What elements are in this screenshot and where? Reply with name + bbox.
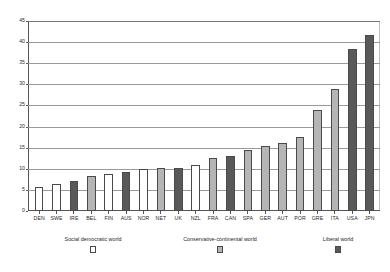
x-axis-tick-mark	[39, 211, 40, 214]
y-axis-tick-label: 15	[1, 145, 25, 150]
bar-fra[interactable]	[209, 158, 218, 211]
y-axis-tick-label: 10	[1, 166, 25, 171]
bar-slot[interactable]	[292, 21, 308, 211]
y-axis-tick-label: 25	[1, 103, 25, 108]
x-axis-label-fra: FRA	[205, 215, 221, 221]
y-axis-tick-label: 35	[1, 61, 25, 66]
bar-slot[interactable]	[66, 21, 82, 211]
bar-net[interactable]	[157, 168, 166, 211]
x-axis-label-nor: NOR	[135, 215, 151, 221]
x-axis-label-ire: IRE	[66, 215, 82, 221]
x-axis-label-gre: GRE	[309, 215, 325, 221]
bar-slot[interactable]	[205, 21, 221, 211]
bar-slot[interactable]	[257, 21, 273, 211]
bar-can[interactable]	[226, 156, 235, 211]
x-axis-tick-mark	[56, 211, 57, 214]
y-axis-tick-label: 40	[1, 40, 25, 45]
bar-slot[interactable]	[170, 21, 186, 211]
bar-slot[interactable]	[327, 21, 343, 211]
bar-aut[interactable]	[278, 143, 287, 211]
x-axis-label-ita: ITA	[327, 215, 343, 221]
bar-slot[interactable]	[48, 21, 64, 211]
bar-jpn[interactable]	[365, 35, 374, 211]
bar-slot[interactable]	[83, 21, 99, 211]
x-axis-tick-mark	[126, 211, 127, 214]
bar-chart: 051015202530354045 DENSWEIREBELFINAUSNOR…	[0, 0, 390, 272]
bar-ita[interactable]	[331, 89, 340, 211]
x-axis-tick-mark	[282, 211, 283, 214]
x-axis-labels: DENSWEIREBELFINAUSNORNETUKNZLFRACANSPAGE…	[28, 215, 380, 221]
y-axis-tick-label: 45	[1, 18, 25, 23]
bar-aus[interactable]	[122, 172, 131, 211]
x-axis-tick-mark	[91, 211, 92, 214]
bar-ger[interactable]	[261, 146, 270, 211]
bar-por[interactable]	[296, 137, 305, 211]
x-axis-label-net: NET	[153, 215, 169, 221]
x-axis-label-aut: AUT	[274, 215, 290, 221]
x-axis-tick-mark	[160, 211, 161, 214]
legend-entry-social[interactable]: Social democratic world	[38, 236, 148, 253]
x-axis-label-swe: SWE	[48, 215, 64, 221]
x-axis-tick-mark	[178, 211, 179, 214]
x-axis-label-jpn: JPN	[361, 215, 377, 221]
chart-legend: Social democratic worldConservative-cont…	[28, 236, 380, 268]
bar-uk[interactable]	[174, 168, 183, 211]
bar-fin[interactable]	[104, 174, 113, 211]
x-axis-tick-mark	[300, 211, 301, 214]
bar-slot[interactable]	[240, 21, 256, 211]
bar-series	[28, 21, 380, 211]
x-axis-label-fin: FIN	[101, 215, 117, 221]
x-axis-label-bel: BEL	[83, 215, 99, 221]
x-axis-tick-mark	[352, 211, 353, 214]
x-axis-label-spa: SPA	[240, 215, 256, 221]
bar-nzl[interactable]	[191, 165, 200, 211]
x-axis-label-por: POR	[292, 215, 308, 221]
bar-slot[interactable]	[118, 21, 134, 211]
bar-spa[interactable]	[244, 150, 253, 211]
legend-swatch-conservative	[217, 246, 224, 253]
x-axis-tick-mark	[213, 211, 214, 214]
x-axis-label-uk: UK	[170, 215, 186, 221]
x-axis-tick-mark	[143, 211, 144, 214]
bar-slot[interactable]	[361, 21, 377, 211]
legend-swatch-social	[90, 246, 97, 253]
bar-slot[interactable]	[135, 21, 151, 211]
x-axis-label-aus: AUS	[118, 215, 134, 221]
bar-slot[interactable]	[309, 21, 325, 211]
x-axis-tick-mark	[108, 211, 109, 214]
x-axis-label-usa: USA	[344, 215, 360, 221]
x-axis-label-ger: GER	[257, 215, 273, 221]
bar-nor[interactable]	[139, 169, 148, 211]
bar-slot[interactable]	[101, 21, 117, 211]
legend-swatch-liberal	[335, 246, 342, 253]
bar-gre[interactable]	[313, 110, 322, 211]
y-axis-tick-label: 30	[1, 82, 25, 87]
bar-usa[interactable]	[348, 49, 357, 211]
y-axis-tick-label: 20	[1, 124, 25, 129]
x-axis-tick-mark	[73, 211, 74, 214]
legend-label: Conservative-continental world	[156, 236, 284, 242]
x-axis-label-den: DEN	[31, 215, 47, 221]
y-axis-tick-label: 0	[1, 208, 25, 213]
bar-slot[interactable]	[188, 21, 204, 211]
x-axis-tick-mark	[230, 211, 231, 214]
bar-swe[interactable]	[52, 184, 61, 211]
legend-entry-conservative[interactable]: Conservative-continental world	[156, 236, 284, 253]
x-axis-tick-mark	[265, 211, 266, 214]
bar-ire[interactable]	[70, 181, 79, 211]
bar-slot[interactable]	[222, 21, 238, 211]
bar-slot[interactable]	[344, 21, 360, 211]
x-axis-tick-mark	[247, 211, 248, 214]
x-axis-tick-mark	[195, 211, 196, 214]
bar-bel[interactable]	[87, 176, 96, 211]
bar-slot[interactable]	[31, 21, 47, 211]
bar-slot[interactable]	[274, 21, 290, 211]
legend-entry-liberal[interactable]: Liberal world	[296, 236, 380, 253]
bar-den[interactable]	[35, 187, 44, 211]
x-axis-label-can: CAN	[222, 215, 238, 221]
x-axis-label-nzl: NZL	[188, 215, 204, 221]
y-axis-tick-label: 5	[1, 187, 25, 192]
x-axis-tick-mark	[334, 211, 335, 214]
x-axis-tick-mark	[369, 211, 370, 214]
bar-slot[interactable]	[153, 21, 169, 211]
